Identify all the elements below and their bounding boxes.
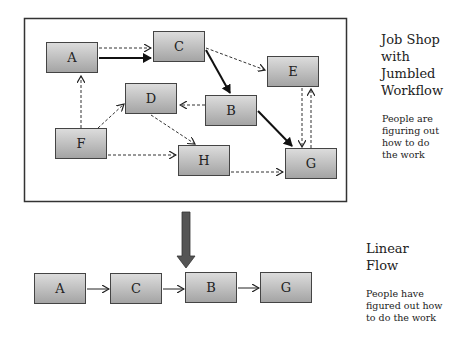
node-c: C [153,31,205,62]
title-line: Linear [366,240,409,257]
transition-arrow [177,212,195,268]
node-a: A [46,42,98,73]
linear-node-c: C [110,273,162,304]
note-line: People are [382,113,439,125]
node-b: B [205,95,257,126]
note-line: figured out how [366,300,442,312]
title-line: Workflow [381,82,443,99]
job-shop-note: People are figuring out how to do the wo… [382,113,439,161]
node-h: H [178,145,230,176]
linear-flow-note: People have figured out how to do the wo… [366,288,442,324]
linear-node-b: B [185,272,237,303]
node-f: F [55,128,107,159]
note-line: figuring out [382,125,439,137]
note-line: how to do [382,137,439,149]
linear-flow-title: Linear Flow [366,240,409,274]
title-line: with [381,48,443,65]
title-line: Flow [366,257,409,274]
job-shop-title: Job Shop with Jumbled Workflow [381,31,443,99]
linear-node-g: G [260,272,312,303]
linear-node-a: A [34,273,86,304]
node-d: D [125,83,177,114]
note-line: to do the work [366,312,442,324]
title-line: Jumbled [381,65,443,82]
note-line: People have [366,288,442,300]
node-e: E [267,56,319,87]
title-line: Job Shop [381,31,443,48]
note-line: the work [382,149,439,161]
node-g: G [285,148,337,179]
